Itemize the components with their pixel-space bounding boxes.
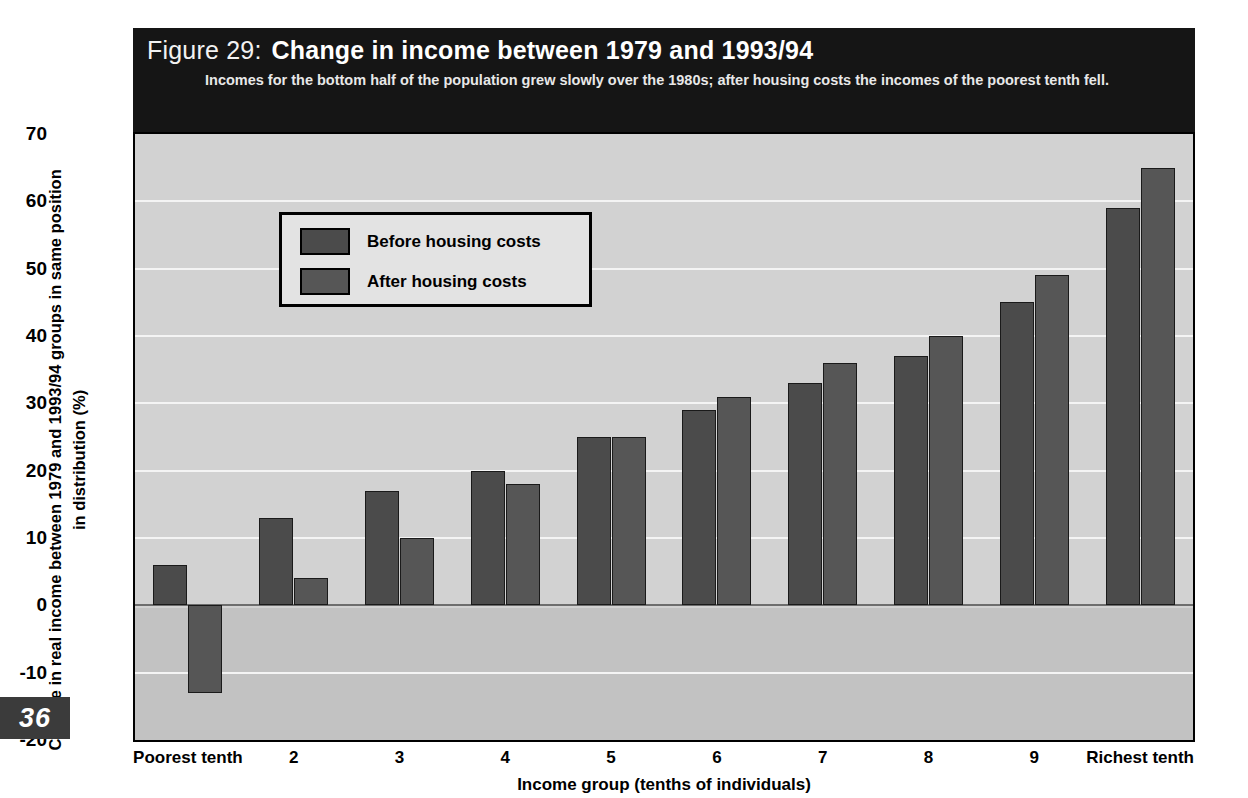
y-tick-10: 10 <box>0 527 47 549</box>
legend-label-before: Before housing costs <box>367 232 541 252</box>
figure-number-label: Figure 29: <box>147 36 262 65</box>
y-tick--10: -10 <box>0 662 47 684</box>
x-tick-10: Richest tenth <box>1086 748 1194 768</box>
x-tick-7: 7 <box>818 748 827 768</box>
y-tick-50: 50 <box>0 258 47 280</box>
x-tick-2: 2 <box>289 748 298 768</box>
y-axis-label: Change in real income between 1979 and 1… <box>44 160 92 760</box>
legend-swatch-before-icon <box>300 228 350 255</box>
legend-swatch-after-icon <box>300 268 350 295</box>
y-tick-20: 20 <box>0 460 47 482</box>
x-tick-9: 9 <box>1030 748 1039 768</box>
page-number-badge: 36 <box>0 697 70 739</box>
bar-before-10 <box>1106 208 1140 605</box>
bar-after-10 <box>1141 168 1175 606</box>
y-tick-40: 40 <box>0 325 47 347</box>
x-tick-5: 5 <box>606 748 615 768</box>
x-tick-1: Poorest tenth <box>133 748 243 768</box>
y-tick-30: 30 <box>0 392 47 414</box>
x-tick-6: 6 <box>712 748 721 768</box>
x-tick-8: 8 <box>924 748 933 768</box>
y-tick-60: 60 <box>0 190 47 212</box>
x-axis-label: Income group (tenths of individuals) <box>133 775 1195 795</box>
x-tick-3: 3 <box>395 748 404 768</box>
y-tick-0: 0 <box>0 594 47 616</box>
legend-item-after: After housing costs <box>300 268 589 295</box>
figure-page: Figure 29: Change in income between 1979… <box>0 0 1248 798</box>
y-tick-70: 70 <box>0 123 47 145</box>
legend-item-before: Before housing costs <box>300 228 589 255</box>
x-tick-4: 4 <box>501 748 510 768</box>
legend: Before housing costs After housing costs <box>279 212 592 307</box>
figure-title: Change in income between 1979 and 1993/9… <box>272 36 814 65</box>
figure-title-line: Figure 29: Change in income between 1979… <box>147 36 1181 65</box>
figure-subtitle: Incomes for the bottom half of the popul… <box>205 71 1181 90</box>
legend-label-after: After housing costs <box>367 272 527 292</box>
figure-banner: Figure 29: Change in income between 1979… <box>133 28 1195 132</box>
